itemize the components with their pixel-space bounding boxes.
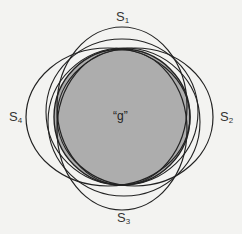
label-s2: S2 — [220, 110, 233, 125]
label-s3: S3 — [117, 211, 130, 226]
label-s1: S1 — [116, 10, 129, 25]
label-s4: S4 — [9, 110, 22, 125]
venn-diagram: S1 S2 S3 S4 “g” — [0, 0, 242, 234]
center-label: “g” — [113, 109, 128, 123]
